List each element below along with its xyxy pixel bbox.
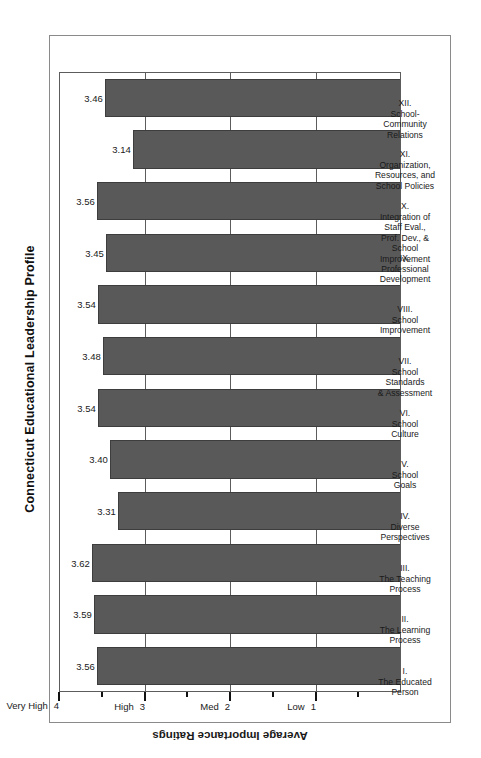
category-name-line: Professional (379, 263, 430, 274)
x-axis-category: VII.SchoolStandards& Assessment (405, 330, 463, 382)
bar-value-label: 3.59 (56, 609, 108, 620)
y-axis-minor-tick (186, 692, 188, 697)
y-axis-tick-label-2: Med2 (200, 701, 230, 712)
category-name-line: Improvement (379, 254, 429, 265)
y-tick-word: Low (286, 701, 303, 712)
category-name-line: Person (378, 687, 432, 698)
x-axis-category-text: X.Integration ofStaff Eval.,Prof. Dev., … (379, 201, 429, 264)
y-axis-title: Average Importance Ratings (59, 727, 401, 745)
bar-slot: 3.56 (59, 640, 401, 692)
plot-area: 3.563.593.623.313.403.543.483.543.453.56… (59, 72, 401, 692)
category-name-line: School Policies (374, 181, 434, 192)
bar[interactable] (98, 285, 401, 323)
bar-slot: 3.62 (59, 537, 401, 589)
bar-series: 3.563.593.623.313.403.543.483.543.453.56… (59, 72, 401, 692)
category-name-line: Process (379, 636, 430, 647)
y-tick-word: Med (200, 701, 218, 712)
y-tick-number: 2 (224, 701, 229, 712)
y-axis-tick-2 (229, 692, 231, 701)
x-axis-category-text: I.The EducatedPerson (378, 666, 432, 698)
bar[interactable] (96, 182, 400, 220)
category-name-line: Culture (391, 429, 419, 440)
category-name-line: Goals (391, 480, 417, 491)
x-axis-category: IV.DiversePerspectives (405, 485, 463, 537)
y-axis-tick-3 (143, 692, 145, 701)
category-name-line: Prof. Dev., & (379, 233, 429, 244)
y-axis-minor-tick (271, 692, 273, 697)
category-roman-numeral: II. (379, 615, 430, 626)
chart-figure: Connecticut Educational Leadership Profi… (15, 21, 467, 737)
bar-slot: 3.14 (59, 124, 401, 176)
category-name-line: School- (383, 108, 426, 119)
category-name-line: Community (383, 119, 426, 130)
bar[interactable] (118, 492, 401, 530)
y-axis-tick-label-3: High3 (113, 701, 144, 712)
bar[interactable] (91, 544, 401, 582)
bar-slot: 3.48 (59, 330, 401, 382)
x-axis-category: XII.School-CommunityRelations (405, 72, 463, 124)
x-axis-category-text: VII.SchoolStandards& Assessment (377, 356, 431, 398)
y-axis-minor-tick (100, 692, 102, 697)
category-name-line: Integration of (379, 212, 429, 223)
x-axis-category: V.SchoolGoals (405, 434, 463, 486)
x-axis-category-text: V.SchoolGoals (391, 459, 417, 491)
x-axis-category-text: IV.DiversePerspectives (380, 511, 429, 543)
x-axis-category-text: VIII.SchoolImprovement (379, 304, 429, 336)
category-name-line: Organization, (374, 160, 434, 171)
bar[interactable] (110, 440, 401, 478)
category-roman-numeral: X. (379, 201, 429, 212)
bar-value-label: 3.31 (80, 506, 132, 517)
x-axis-category-labels: I.The EducatedPersonII.The LearningProce… (405, 72, 463, 692)
category-name-line: School (377, 367, 431, 378)
bar-value-label: 3.48 (66, 351, 118, 362)
bar[interactable] (106, 234, 401, 272)
x-axis-category: II.The LearningProcess (405, 589, 463, 641)
category-name-line: School (379, 243, 429, 254)
bar-slot: 3.40 (59, 434, 401, 486)
x-axis-category: III.The TeachingProcess (405, 537, 463, 589)
bar-value-label: 3.62 (54, 557, 106, 568)
category-name-line: School (379, 315, 429, 326)
category-name-line: Perspectives (380, 532, 429, 543)
y-tick-number: 1 (310, 701, 315, 712)
bar[interactable] (94, 595, 401, 633)
category-name-line: The Teaching (379, 573, 430, 584)
y-axis-tick-1 (314, 692, 316, 701)
category-name-line: The Learning (379, 625, 430, 636)
y-axis-tick-label-4: Very High4 (6, 701, 58, 712)
category-roman-numeral: I. (378, 666, 432, 677)
bar[interactable] (132, 130, 400, 168)
category-name-line: Process (379, 584, 430, 595)
category-roman-numeral: IV. (380, 511, 429, 522)
y-tick-word: High (113, 701, 133, 712)
bar-slot: 3.59 (59, 589, 401, 641)
bar-slot: 3.54 (59, 279, 401, 331)
y-tick-number: 3 (139, 701, 144, 712)
bar[interactable] (96, 647, 400, 685)
bar-value-label: 3.56 (59, 196, 111, 207)
category-name-line: The Educated (378, 677, 432, 688)
bar[interactable] (105, 79, 401, 117)
category-roman-numeral: XI. (374, 149, 434, 160)
category-name-line: Development (379, 274, 430, 285)
y-axis-title-text: Average Importance Ratings (152, 730, 308, 742)
x-axis-category: I.The EducatedPerson (405, 640, 463, 692)
category-roman-numeral: XII. (383, 98, 426, 109)
scanned-page: Connecticut Educational Leadership Profi… (0, 0, 481, 758)
y-axis-tick-label-1: Low1 (286, 701, 315, 712)
bar-value-label: 3.46 (67, 92, 119, 103)
category-name-line: Standards (377, 377, 431, 388)
bar[interactable] (98, 389, 401, 427)
x-axis-category-text: II.The LearningProcess (379, 615, 430, 647)
bar[interactable] (103, 337, 401, 375)
bar-slot: 3.31 (59, 485, 401, 537)
bar-value-label: 3.56 (59, 661, 111, 672)
category-roman-numeral: III. (379, 563, 430, 574)
bar-value-label: 3.45 (68, 247, 120, 258)
category-name-line: Diverse (380, 522, 429, 533)
category-roman-numeral: VIII. (379, 304, 429, 315)
x-axis-category-text: VI.SchoolCulture (391, 408, 419, 440)
y-tick-word: Very High (6, 701, 47, 712)
category-name-line: Improvement (379, 325, 429, 336)
chart-title: Connecticut Educational Leadership Profi… (23, 21, 37, 737)
